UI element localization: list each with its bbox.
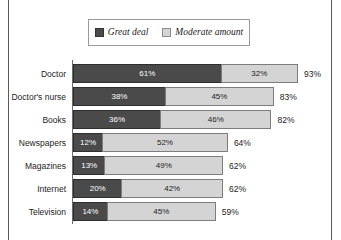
category-label: Books (0, 110, 66, 129)
chart-plot-area: Doctor61%32%93%Doctor's nurse38%45%83%Bo… (0, 0, 341, 240)
bar-segment-moderate-amount: 46% (160, 110, 271, 129)
bar-segment-great-deal: 61% (73, 64, 221, 83)
bar-total-label: 59% (222, 202, 239, 221)
bar-segment-great-deal: 36% (73, 110, 160, 129)
bar-segment-moderate-amount: 49% (104, 156, 223, 175)
category-label: Magazines (0, 156, 66, 175)
bar-segment-moderate-amount: 42% (121, 179, 223, 198)
stacked-bar: 38%45% (73, 87, 274, 106)
bar-segment-great-deal: 14% (73, 202, 107, 221)
chart-row: Internet20%42%62% (0, 179, 341, 198)
chart-row: Newspapers12%52%64% (0, 133, 341, 152)
bar-total-label: 83% (280, 87, 297, 106)
bar-segment-moderate-amount: 45% (165, 87, 274, 106)
stacked-bar: 12%52% (73, 133, 228, 152)
bar-segment-great-deal: 38% (73, 87, 165, 106)
category-label: Newspapers (0, 133, 66, 152)
chart-row: Doctor61%32%93% (0, 64, 341, 83)
bar-segment-moderate-amount: 32% (221, 64, 298, 83)
chart-figure: Great dealModerate amount Doctor61%32%93… (0, 0, 341, 240)
bar-segment-moderate-amount: 52% (102, 133, 228, 152)
bar-segment-great-deal: 20% (73, 179, 121, 198)
category-label: Television (0, 202, 66, 221)
bar-total-label: 93% (304, 64, 321, 83)
chart-row: Magazines13%49%62% (0, 156, 341, 175)
category-label: Doctor (0, 64, 66, 83)
stacked-bar: 13%49% (73, 156, 223, 175)
category-label: Doctor's nurse (0, 87, 66, 106)
bar-segment-moderate-amount: 45% (107, 202, 216, 221)
chart-row: Books36%46%82% (0, 110, 341, 129)
bar-segment-great-deal: 13% (73, 156, 104, 175)
chart-row: Doctor's nurse38%45%83% (0, 87, 341, 106)
category-label: Internet (0, 179, 66, 198)
bar-total-label: 64% (234, 133, 251, 152)
bar-total-label: 82% (277, 110, 294, 129)
bar-segment-great-deal: 12% (73, 133, 102, 152)
stacked-bar: 14%45% (73, 202, 216, 221)
stacked-bar: 20%42% (73, 179, 223, 198)
chart-row: Television14%45%59% (0, 202, 341, 221)
bar-total-label: 62% (229, 156, 246, 175)
bar-total-label: 62% (229, 179, 246, 198)
stacked-bar: 36%46% (73, 110, 271, 129)
stacked-bar: 61%32% (73, 64, 298, 83)
